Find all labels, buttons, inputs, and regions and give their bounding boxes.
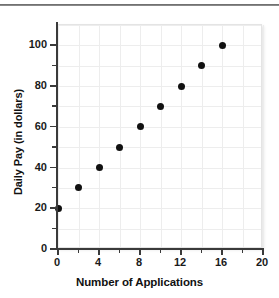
data-points-layer <box>58 25 261 247</box>
x-tick-minor <box>201 248 203 253</box>
data-point <box>198 62 205 69</box>
y-tick-label: 60 <box>35 120 47 132</box>
x-tick-major <box>57 248 59 255</box>
x-tick-minor <box>119 248 121 253</box>
y-tick-minor <box>52 187 57 189</box>
x-tick-minor <box>242 248 244 253</box>
scatter-plot-figure: 020406080100 048121620 Daily Pay (in dol… <box>0 0 279 298</box>
data-point <box>137 123 144 130</box>
data-point <box>219 42 226 49</box>
x-tick-major <box>139 248 141 255</box>
data-point <box>116 144 123 151</box>
data-point <box>96 164 103 171</box>
x-tick-major <box>98 248 100 255</box>
y-tick-major <box>50 248 57 250</box>
data-point <box>75 184 82 191</box>
y-tick-label: 20 <box>35 201 47 213</box>
y-tick-major <box>50 126 57 128</box>
x-tick-label: 0 <box>54 256 60 268</box>
y-tick-major <box>50 167 57 169</box>
y-tick-label: 40 <box>35 161 47 173</box>
x-tick-major <box>221 248 223 255</box>
x-tick-minor <box>160 248 162 253</box>
plot-area <box>57 24 262 248</box>
x-tick-minor <box>78 248 80 253</box>
x-axis-title: Number of Applications <box>0 276 279 288</box>
x-tick-major <box>262 248 264 255</box>
data-point <box>157 103 164 110</box>
y-axis-line <box>56 22 58 250</box>
x-tick-major <box>180 248 182 255</box>
gridline-vertical <box>263 25 264 247</box>
x-tick-label: 4 <box>95 256 101 268</box>
y-tick-minor <box>52 65 57 67</box>
y-tick-minor <box>52 228 57 230</box>
x-tick-label: 20 <box>256 256 268 268</box>
data-point <box>178 83 185 90</box>
y-tick-major <box>50 44 57 46</box>
x-tick-label: 12 <box>174 256 186 268</box>
y-tick-major <box>50 207 57 209</box>
x-tick-label: 8 <box>136 256 142 268</box>
y-tick-minor <box>52 146 57 148</box>
y-tick-label: 0 <box>41 242 47 254</box>
y-tick-label: 100 <box>29 38 47 50</box>
y-tick-label: 80 <box>35 79 47 91</box>
y-tick-major <box>50 85 57 87</box>
y-tick-minor <box>52 105 57 107</box>
x-tick-label: 16 <box>215 256 227 268</box>
y-axis-title: Daily Pay (in dollars) <box>12 62 24 222</box>
